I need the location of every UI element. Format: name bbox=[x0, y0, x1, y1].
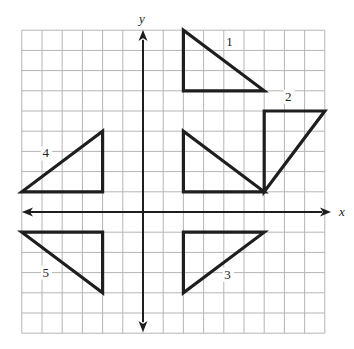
triangle-label-5: 5 bbox=[43, 265, 50, 280]
triangle-label-2: 2 bbox=[285, 89, 292, 104]
triangle-label-1: 1 bbox=[226, 34, 233, 49]
coordinate-plane: x y 12453 bbox=[0, 0, 354, 349]
triangles: 12453 bbox=[22, 30, 325, 293]
triangle-label-3: 3 bbox=[224, 267, 231, 282]
triangle-label-4: 4 bbox=[43, 145, 50, 160]
x-axis-label: x bbox=[338, 204, 345, 219]
y-axis-label: y bbox=[137, 11, 145, 26]
grid-lines bbox=[22, 30, 325, 333]
